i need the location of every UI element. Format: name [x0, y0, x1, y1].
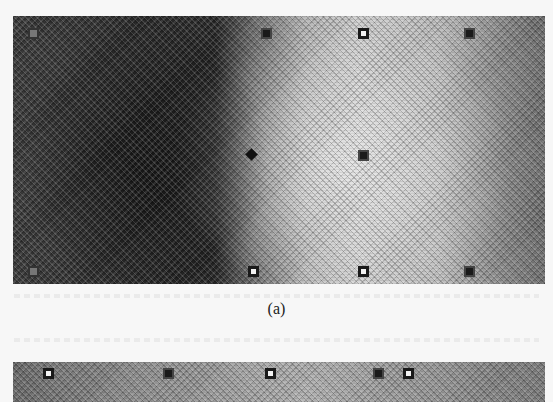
fiducial-marker-icon: [464, 28, 475, 39]
figure-panel-b: [13, 362, 545, 402]
fiducial-marker-icon: [261, 28, 272, 39]
show-through-line: [14, 338, 539, 342]
fiducial-marker-icon: [464, 266, 475, 277]
fiducial-marker-icon: [358, 266, 369, 277]
fiducial-marker-icon: [248, 266, 259, 277]
speckle-texture: [13, 16, 545, 284]
fiducial-marker-icon: [28, 28, 39, 39]
speckle-texture: [13, 362, 545, 402]
figure-panel-a: [13, 16, 545, 284]
figure-caption-a: (a): [0, 300, 553, 318]
fiducial-marker-icon: [43, 368, 54, 379]
fiducial-marker-icon: [403, 368, 414, 379]
show-through-line: [14, 294, 539, 298]
fiducial-marker-icon: [358, 150, 369, 161]
fiducial-marker-icon: [373, 368, 384, 379]
fiducial-marker-icon: [358, 28, 369, 39]
fiducial-marker-icon: [163, 368, 174, 379]
fiducial-marker-icon: [28, 266, 39, 277]
fiducial-marker-icon: [265, 368, 276, 379]
